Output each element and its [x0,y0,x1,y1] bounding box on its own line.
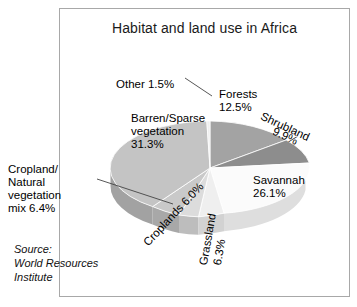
source-attribution: Source: World Resources Institute [14,242,98,284]
leader-line-other [185,78,212,96]
label-cropland-mix: Cropland/ Natural vegetation mix 6.4% [8,163,61,215]
chart-figure: Habitat and land use in Africa [0,0,357,307]
label-other: Other 1.5% [116,78,174,91]
label-savannah: Savannah 26.1% [253,174,305,200]
label-forests: Forests 12.5% [219,88,257,114]
label-barren: Barren/Sparse vegetation 31.3% [131,112,205,151]
